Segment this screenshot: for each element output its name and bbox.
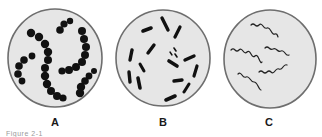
- bacilli-dish-icon: [113, 8, 213, 110]
- panel-c: C: [221, 7, 319, 111]
- figure-caption: Figure 2-1: [6, 130, 43, 137]
- panel-a-label: A: [45, 116, 65, 128]
- panel-c-label: C: [259, 116, 279, 128]
- cocci-dish-icon: [5, 6, 105, 110]
- spirilla-dish-icon: [221, 7, 319, 111]
- bacteria-morphology-figure: A: [0, 0, 322, 137]
- panel-a: A: [5, 6, 105, 110]
- panel-b: B: [113, 8, 213, 110]
- panel-b-label: B: [153, 116, 173, 128]
